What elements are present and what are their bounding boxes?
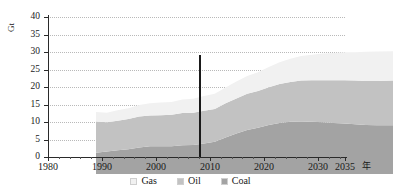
legend-swatch-coal (221, 178, 228, 185)
y-tick-label: 15 (0, 100, 40, 110)
x-minor-tick-mark (199, 157, 200, 159)
y-tick-label: 10 (0, 117, 40, 127)
y-tick-label: 30 (0, 47, 40, 57)
x-minor-tick-mark (221, 157, 222, 159)
y-tick-label: 35 (0, 30, 40, 40)
x-minor-tick-mark (59, 157, 60, 159)
x-minor-tick-mark (113, 157, 114, 159)
x-minor-tick-mark (253, 157, 254, 159)
legend-item-oil[interactable]: Oil (177, 176, 201, 186)
x-minor-tick-mark (178, 157, 179, 159)
x-tick-label: 2020 (248, 162, 280, 172)
legend-item-gas[interactable]: Gas (130, 176, 157, 186)
x-minor-tick-mark (167, 157, 168, 159)
x-axis-unit-label: 年 (362, 162, 371, 171)
x-minor-tick-mark (145, 157, 146, 159)
x-minor-tick-mark (242, 157, 243, 159)
history-projection-divider (199, 55, 200, 157)
x-tick-label: 1980 (32, 162, 64, 172)
x-minor-tick-mark (307, 157, 308, 159)
legend-swatch-oil (177, 178, 184, 185)
x-tick-label: 2010 (194, 162, 226, 172)
legend-item-coal[interactable]: Coal (221, 176, 251, 186)
gridline (48, 17, 345, 18)
x-minor-tick-mark (232, 157, 233, 159)
y-tick-mark (44, 35, 48, 36)
y-tick-mark (44, 87, 48, 88)
x-minor-tick-mark (188, 157, 189, 159)
y-axis-line (48, 15, 49, 159)
y-tick-label: 20 (0, 82, 40, 92)
y-tick-mark (44, 140, 48, 141)
x-tick-label: 2035 (329, 162, 361, 172)
legend-label: Coal (232, 176, 251, 186)
x-minor-tick-mark (80, 157, 81, 159)
x-minor-tick-mark (124, 157, 125, 159)
y-tick-mark (44, 105, 48, 106)
x-tick-label: 2000 (140, 162, 172, 172)
legend-label: Gas (141, 176, 157, 186)
y-tick-mark (44, 70, 48, 71)
x-minor-tick-mark (296, 157, 297, 159)
chart-legend: GasOilCoal (0, 176, 381, 186)
x-tick-label: 1990 (86, 162, 118, 172)
y-tick-label: 25 (0, 65, 40, 75)
y-tick-label: 5 (0, 135, 40, 145)
y-tick-label: 0 (0, 152, 40, 162)
x-minor-tick-mark (91, 157, 92, 159)
legend-label: Oil (188, 176, 201, 186)
x-minor-tick-mark (286, 157, 287, 159)
x-minor-tick-mark (329, 157, 330, 159)
x-minor-tick-mark (134, 157, 135, 159)
y-tick-mark (44, 17, 48, 18)
y-tick-label: 40 (0, 12, 40, 22)
legend-swatch-gas (130, 178, 137, 185)
x-minor-tick-mark (70, 157, 71, 159)
area-series-group (96, 34, 393, 174)
plot-area (48, 17, 345, 157)
x-minor-tick-mark (275, 157, 276, 159)
y-tick-mark (44, 52, 48, 53)
y-tick-mark (44, 122, 48, 123)
x-minor-tick-mark (340, 157, 341, 159)
